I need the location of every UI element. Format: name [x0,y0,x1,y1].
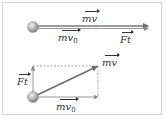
label-mv0-top: mv0 [58,33,78,45]
mv0-sub-bottom: 0 [71,106,75,114]
mv-text-bottom: mv [102,58,117,68]
ball-bottom-icon [28,92,39,103]
ft-text-top: Ft [120,35,131,45]
mv-text-top: mv [82,14,97,24]
mv0-text-top: mv [58,32,73,43]
mv-vector-bottom [33,67,97,98]
label-ft-top: Ft [120,35,131,45]
ft-text-bottom: Ft [17,77,28,87]
label-ft-bottom: Ft [17,77,28,87]
ball-top-icon [28,22,39,33]
label-mv0-bottom: mv0 [56,102,76,114]
mv0-sub-top: 0 [73,37,77,45]
joint-tick-icon [95,28,97,30]
mv0-text-bottom: mv [56,101,71,112]
label-mv-bottom: mv [102,58,117,68]
bottom-panel [28,66,99,103]
label-mv-top: mv [82,14,97,24]
